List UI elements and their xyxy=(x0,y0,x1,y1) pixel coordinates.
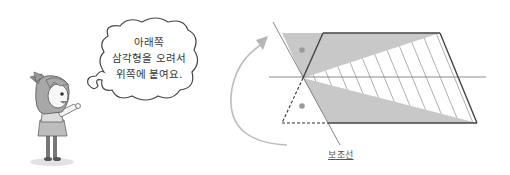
figure-canvas xyxy=(0,0,510,175)
speech-line-1: 아래쪽 xyxy=(104,34,194,50)
arrowhead-icon xyxy=(256,36,268,50)
lower-gray-triangle xyxy=(303,78,477,123)
speech-line-2: 삼각형을 오려서 xyxy=(104,50,194,66)
speech-line-3: 위쪽에 붙여요. xyxy=(104,66,194,82)
rotation-arrow xyxy=(231,36,287,145)
auxiliary-line-label: 보조선 xyxy=(328,148,354,161)
angle-dot-top xyxy=(299,47,305,53)
ground-shadow xyxy=(30,158,74,166)
girl-character-illustration xyxy=(30,72,81,166)
speech-bubble-text: 아래쪽 삼각형을 오려서 위쪽에 붙여요. xyxy=(104,34,194,82)
upper-gray-triangle xyxy=(303,33,440,78)
shaded-triangles xyxy=(282,33,477,123)
angle-dot-bottom xyxy=(299,103,305,109)
